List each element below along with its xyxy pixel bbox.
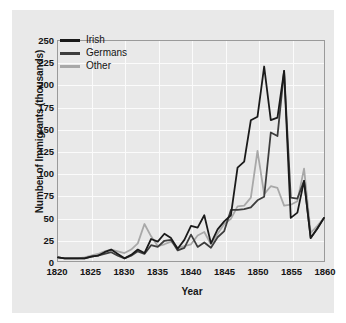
y-tick-label: 125: [12, 146, 54, 157]
y-tick-label: 100: [12, 168, 54, 179]
series-line-other: [58, 151, 324, 258]
legend-item[interactable]: Germans: [60, 47, 152, 59]
legend-swatch-other: [60, 65, 80, 68]
x-tick-label: 1860: [303, 266, 346, 277]
y-tick-label: 200: [12, 79, 54, 90]
legend-item[interactable]: Other: [60, 60, 152, 72]
y-tick-label: 225: [12, 57, 54, 68]
series-line-irish: [58, 67, 324, 259]
legend-swatch-germans: [60, 52, 80, 55]
y-tick-label: 175: [12, 101, 54, 112]
x-axis-title: Year: [57, 286, 327, 297]
y-tick-label: 25: [12, 234, 54, 245]
series-svg: [58, 41, 324, 261]
chart-legend: IrishGermansOther: [60, 34, 152, 73]
y-tick-label: 75: [12, 190, 54, 201]
y-tick-label: 150: [12, 123, 54, 134]
legend-item[interactable]: Irish: [60, 34, 152, 46]
legend-label: Irish: [86, 34, 105, 46]
chart-screenshot: Number of Immigrants (thousands) 0255075…: [0, 0, 346, 323]
plot-area: [57, 40, 325, 262]
y-tick-label: 250: [12, 35, 54, 46]
chart-panel: Number of Immigrants (thousands) 0255075…: [12, 10, 334, 313]
legend-swatch-irish: [60, 39, 80, 42]
series-line-germans: [58, 71, 324, 258]
legend-label: Other: [86, 60, 111, 72]
y-axis-tick-labels: 0255075100125150175200225250: [12, 40, 54, 262]
x-axis-tick-labels: 182018251830183518401845185018551860: [57, 266, 325, 280]
y-tick-label: 50: [12, 212, 54, 223]
legend-label: Germans: [86, 47, 127, 59]
